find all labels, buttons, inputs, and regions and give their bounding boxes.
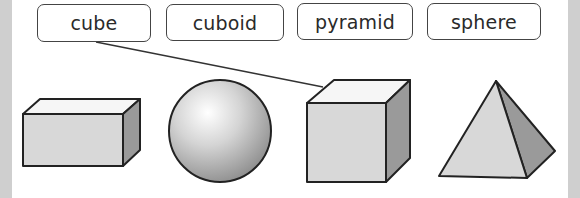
label-pyramid-text: pyramid — [315, 11, 395, 33]
label-cube[interactable]: cube — [37, 4, 151, 42]
sphere-shape[interactable] — [169, 80, 271, 182]
label-sphere-text: sphere — [451, 11, 517, 33]
label-cuboid[interactable]: cuboid — [166, 4, 284, 41]
cuboid-shape[interactable] — [23, 99, 140, 166]
label-cube-text: cube — [70, 12, 117, 34]
pyramid-shape[interactable] — [439, 81, 555, 178]
cube-shape[interactable] — [307, 80, 410, 182]
label-cuboid-text: cuboid — [193, 12, 258, 34]
label-pyramid[interactable]: pyramid — [297, 3, 413, 40]
label-sphere[interactable]: sphere — [427, 3, 541, 40]
